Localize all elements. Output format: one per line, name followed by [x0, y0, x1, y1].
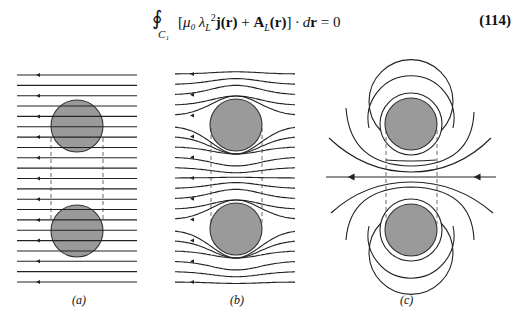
- panel-c-label: (c): [400, 293, 413, 308]
- panel-b: [175, 72, 295, 284]
- superconductor-disk-upper: [385, 98, 437, 150]
- panel-a-label: (a): [72, 293, 86, 308]
- panel-b-label: (b): [230, 293, 244, 308]
- figure-field-lines: [0, 0, 515, 321]
- superconductor-disk-lower: [210, 203, 262, 255]
- superconductor-disk-lower: [385, 204, 437, 256]
- superconductor-disk-lower: [51, 205, 103, 257]
- panel-a: [17, 73, 137, 284]
- panel-c: [326, 60, 496, 295]
- superconductor-disk-upper: [51, 100, 103, 152]
- superconductor-disk-upper: [210, 99, 262, 151]
